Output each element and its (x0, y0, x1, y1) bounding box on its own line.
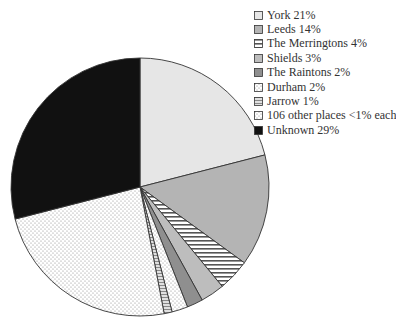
legend-swatch-icon (254, 126, 263, 135)
legend-label: Leeds 14% (267, 22, 321, 37)
legend-item: The Merringtons 4% (254, 37, 396, 51)
legend-item: Leeds 14% (254, 22, 396, 36)
legend-swatch-icon (254, 111, 263, 120)
legend-item: The Raintons 2% (254, 66, 396, 80)
legend-label: The Merringtons 4% (267, 36, 367, 51)
legend: York 21%Leeds 14%The Merringtons 4%Shiel… (254, 8, 396, 138)
pie-chart (0, 0, 280, 327)
legend-label: Unknown 29% (267, 123, 339, 138)
legend-item: Shields 3% (254, 51, 396, 65)
legend-swatch-icon (254, 68, 263, 77)
pie-slices (11, 58, 269, 316)
legend-label: Jarrow 1% (267, 94, 319, 109)
legend-label: 106 other places <1% each (267, 108, 396, 123)
legend-swatch-icon (254, 39, 263, 48)
legend-swatch-icon (254, 83, 263, 92)
legend-item: Unknown 29% (254, 123, 396, 137)
legend-label: Shields 3% (267, 51, 321, 66)
legend-label: The Raintons 2% (267, 65, 350, 80)
legend-item: 106 other places <1% each (254, 109, 396, 123)
legend-swatch-icon (254, 54, 263, 63)
legend-swatch-icon (254, 25, 263, 34)
legend-item: Durham 2% (254, 80, 396, 94)
legend-label: Durham 2% (267, 80, 325, 95)
legend-swatch-icon (254, 97, 263, 106)
legend-swatch-icon (254, 11, 263, 20)
legend-item: York 21% (254, 8, 396, 22)
legend-label: York 21% (267, 8, 315, 23)
legend-item: Jarrow 1% (254, 94, 396, 108)
